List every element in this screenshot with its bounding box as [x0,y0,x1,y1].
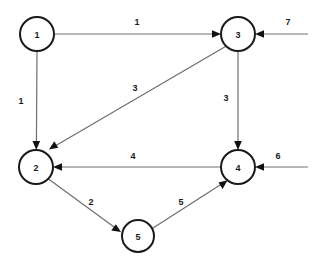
edge-5-to-4-weight: 5 [178,197,183,207]
edge-5-to-4-line [153,183,224,229]
edge-4-to-2: 4 [53,151,221,171]
external-input-to-3: 7 [255,17,308,38]
node-1[interactable]: 1 [20,17,54,51]
node-5[interactable]: 5 [122,220,154,252]
edge-3-to-4: 3 [223,51,241,150]
edge-1-to-2-arrowhead [33,141,41,150]
edge-1-to-2: 1 [18,51,40,150]
edge-1-to-2-weight: 1 [18,96,23,106]
graph-diagram-canvas: 1 1 3 3 4 2 [0,0,312,270]
node-4-label: 4 [235,163,240,173]
node-3[interactable]: 3 [221,17,255,51]
edge-3-to-2-weight: 3 [132,83,137,93]
node-4[interactable]: 4 [221,150,255,184]
edge-5-to-4: 5 [153,180,228,228]
edge-3-to-2-line [53,47,226,148]
edge-2-to-5-weight: 2 [88,197,93,207]
node-2-label: 2 [33,163,38,173]
edge-3-to-2: 3 [49,47,226,150]
edge-2-to-5-line [49,179,118,230]
edge-1-to-2-line [36,51,37,146]
edge-3-to-4-weight: 3 [223,93,228,103]
external-input-to-3-arrowhead [255,30,264,38]
node-3-label: 3 [235,30,240,40]
edge-1-to-3-weight: 1 [134,17,139,27]
graph-svg-root: 1 1 3 3 4 2 [0,0,312,270]
node-1-label: 1 [34,30,39,40]
edge-1-to-3-arrowhead [212,30,221,38]
edge-2-to-5: 2 [49,179,122,232]
node-2[interactable]: 2 [19,150,53,184]
edge-3-to-4-arrowhead [234,141,242,150]
external-input-to-4-weight: 6 [275,151,280,161]
edge-4-to-2-weight: 4 [130,151,135,161]
edge-5-to-4-arrowhead [219,180,228,189]
edge-4-to-2-arrowhead [53,163,62,171]
external-input-to-4-arrowhead [255,163,264,171]
edge-1-to-3: 1 [54,17,221,38]
external-input-to-4: 6 [255,151,308,171]
node-5-label: 5 [135,232,140,242]
external-input-to-3-weight: 7 [285,17,290,27]
